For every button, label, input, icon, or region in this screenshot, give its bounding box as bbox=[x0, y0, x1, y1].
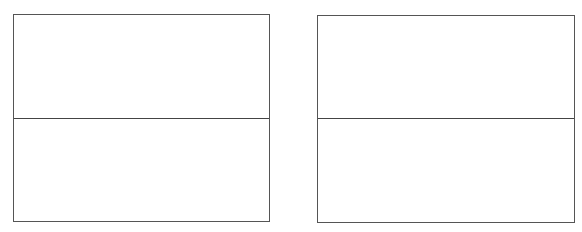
right-panel bbox=[317, 15, 575, 223]
left-panel-bottom-cell bbox=[14, 119, 269, 221]
left-panel-top-cell bbox=[14, 15, 269, 118]
left-panel bbox=[13, 14, 270, 222]
right-panel-bottom-cell bbox=[318, 119, 574, 222]
right-panel-top-cell bbox=[318, 16, 574, 118]
